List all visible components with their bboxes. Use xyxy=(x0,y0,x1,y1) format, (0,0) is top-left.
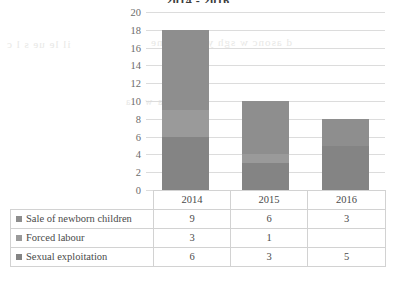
table-year-header-2014: 2014 xyxy=(154,191,231,210)
y-axis-tick-label: 20 xyxy=(131,7,142,18)
table-value-cell: 3 xyxy=(231,248,308,267)
chart-title: 2014 - 2016 xyxy=(0,0,396,3)
plot-area: 20181614121086420 xyxy=(146,12,385,190)
table-value-cell: 6 xyxy=(154,248,231,267)
legend-swatch-icon xyxy=(16,216,22,222)
table-corner-cell xyxy=(11,191,154,210)
bar-segment[interactable] xyxy=(162,30,209,110)
bar-segment[interactable] xyxy=(242,101,289,154)
y-axis-tick-label: 14 xyxy=(131,60,142,71)
gridline-20: 20 xyxy=(146,12,385,13)
legend-item-3[interactable]: Sexual exploitation xyxy=(11,248,154,267)
bar-segment[interactable] xyxy=(322,119,369,146)
legend-swatch-icon xyxy=(16,254,22,260)
table-value-cell: 9 xyxy=(154,210,231,229)
bar-segment[interactable] xyxy=(162,110,209,137)
bar-segment[interactable] xyxy=(162,137,209,190)
table-row: Sexual exploitation635 xyxy=(11,248,386,267)
y-axis-tick-label: 10 xyxy=(131,96,142,107)
y-axis-tick-label: 2 xyxy=(136,167,141,178)
y-axis-tick-label: 6 xyxy=(136,131,141,142)
y-axis-tick-label: 12 xyxy=(131,78,142,89)
table-row: Forced labour31 xyxy=(11,229,386,248)
chart-data-table: 201420152016Sale of newborn children963F… xyxy=(10,190,386,267)
table-header-row: 201420152016 xyxy=(11,191,386,210)
table-year-header-2016: 2016 xyxy=(308,191,386,210)
table-value-cell: 3 xyxy=(154,229,231,248)
table-value-cell: 3 xyxy=(308,210,386,229)
table-row: Sale of newborn children963 xyxy=(11,210,386,229)
legend-swatch-icon xyxy=(16,235,22,241)
table-year-header-2015: 2015 xyxy=(231,191,308,210)
legend-label: Sexual exploitation xyxy=(26,251,107,262)
y-axis-tick-label: 16 xyxy=(131,42,142,53)
y-axis-tick-label: 8 xyxy=(136,113,141,124)
table-value-cell: 5 xyxy=(308,248,386,267)
legend-label: Sale of newborn children xyxy=(26,213,132,224)
table-value-cell: 1 xyxy=(231,229,308,248)
stacked-bar-chart: 2014 - 2016 20181614121086420 2014201520… xyxy=(0,0,396,282)
table-value-cell xyxy=(308,229,386,248)
legend-item-1[interactable]: Sale of newborn children xyxy=(11,210,154,229)
bar-segment[interactable] xyxy=(242,154,289,163)
y-axis-tick-label: 18 xyxy=(131,24,142,35)
bar-column-2015[interactable] xyxy=(242,101,289,190)
bar-column-2014[interactable] xyxy=(162,30,209,190)
bar-segment[interactable] xyxy=(322,146,369,191)
bar-segment[interactable] xyxy=(242,163,289,190)
legend-label: Forced labour xyxy=(26,232,85,243)
bar-column-2016[interactable] xyxy=(322,119,369,190)
legend-item-2[interactable]: Forced labour xyxy=(11,229,154,248)
table-value-cell: 6 xyxy=(231,210,308,229)
y-axis-tick-label: 4 xyxy=(136,149,141,160)
